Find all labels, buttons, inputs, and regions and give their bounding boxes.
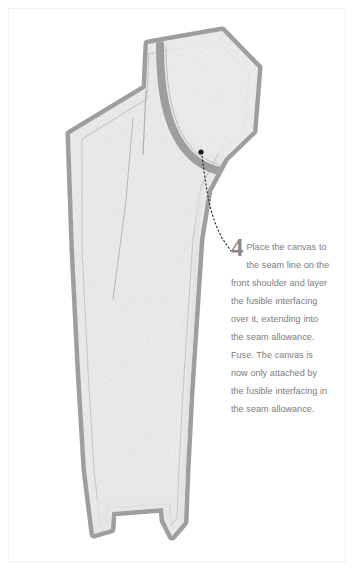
step-description: Place the canvas to the seam line on the… [231, 242, 329, 414]
callout-dot [198, 149, 203, 154]
caption-block: 4 Place the canvas to the seam line on t… [231, 236, 331, 416]
illustration-page: 4 Place the canvas to the seam line on t… [0, 0, 356, 573]
step-number: 4 [231, 237, 244, 259]
